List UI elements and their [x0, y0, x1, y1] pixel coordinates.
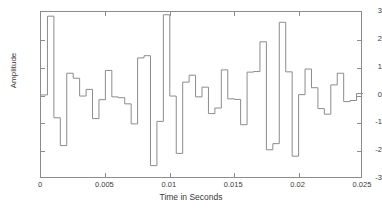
ytick-label-3: 3: [356, 7, 382, 15]
y-axis-label: Amplitude: [9, 36, 18, 106]
xtick-mark: [234, 173, 235, 177]
plot-area: [40, 11, 362, 178]
xtick-mark: [105, 12, 106, 16]
staircase-series: [41, 12, 363, 179]
xtick-mark: [170, 173, 171, 177]
xtick-label-002: 0.02: [290, 180, 305, 189]
ytick-mark: [41, 96, 45, 97]
ytick-label-neg2: -2: [356, 146, 382, 154]
ytick-mark: [41, 123, 45, 124]
ytick-label-1: 1: [356, 63, 382, 71]
ytick-mark: [41, 151, 45, 152]
xtick-mark: [105, 173, 106, 177]
ytick-mark: [41, 68, 45, 69]
xtick-label-001: 0.01: [161, 180, 176, 189]
xtick-label-0: 0: [38, 180, 42, 189]
ytick-label-neg1: -1: [356, 118, 382, 126]
xtick-label-0015: 0.015: [224, 180, 243, 189]
xtick-label-0025: 0.025: [353, 180, 372, 189]
x-axis-label: Time in Seconds: [0, 192, 382, 202]
ytick-label-2: 2: [356, 35, 382, 43]
ytick-label-0: 0: [356, 91, 382, 99]
xtick-label-0005: 0.005: [95, 180, 114, 189]
ytick-mark: [41, 40, 45, 41]
xtick-mark: [170, 12, 171, 16]
xtick-mark: [299, 173, 300, 177]
xtick-mark: [299, 12, 300, 16]
xtick-mark: [234, 12, 235, 16]
chart-figure: 3 2 1 0 -1 -2 -3 0 0.005 0.01 0.015 0.02…: [0, 0, 382, 209]
signal-polyline: [41, 15, 363, 166]
